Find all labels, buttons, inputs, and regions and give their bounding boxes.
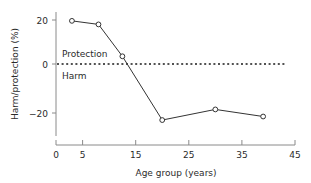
protection-label: Protection [62,49,108,59]
x-tick-label: 15 [130,150,141,160]
x-tick-label: 5 [80,150,86,160]
data-point [96,22,101,27]
series-line-harm-protection [72,21,263,120]
data-point [261,114,266,119]
data-point [70,18,75,23]
series-markers [70,18,266,122]
y-tick-label: −20 [29,109,48,119]
x-axis-ticks: 0 5 15 25 35 45 [53,140,301,160]
x-tick-label: 35 [236,150,247,160]
data-point [213,107,218,112]
x-tick-label: 0 [53,150,59,160]
chart-figure: 20 0 −20 0 5 15 25 35 45 Age group (year… [0,0,311,183]
data-point [160,118,165,123]
x-axis-title: Age group (years) [135,168,216,178]
x-tick-label: 45 [289,150,300,160]
y-axis-ticks: 20 0 −20 [29,16,56,119]
y-axis-title: Harm/protection (%) [10,28,20,120]
data-point [120,54,125,59]
y-tick-label: 20 [37,16,49,26]
harm-label: Harm [62,71,87,81]
line-chart: 20 0 −20 0 5 15 25 35 45 Age group (year… [0,0,311,183]
y-tick-label: 0 [42,60,48,70]
x-tick-label: 25 [183,150,194,160]
